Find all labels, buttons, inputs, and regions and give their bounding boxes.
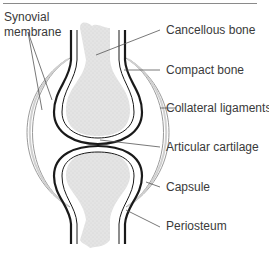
upper-bone — [54, 23, 142, 145]
label-articular-cartilage: Articular cartilage — [166, 140, 259, 154]
label-capsule: Capsule — [166, 180, 210, 194]
lower-bone — [54, 146, 142, 248]
label-cancellous-bone: Cancellous bone — [166, 23, 255, 37]
label-periosteum: Periosteum — [166, 219, 227, 233]
label-collateral-ligaments: Collateral ligaments — [166, 101, 269, 115]
label-compact-bone: Compact bone — [166, 63, 244, 77]
label-synovial-membrane: Synovial membrane — [4, 10, 74, 40]
